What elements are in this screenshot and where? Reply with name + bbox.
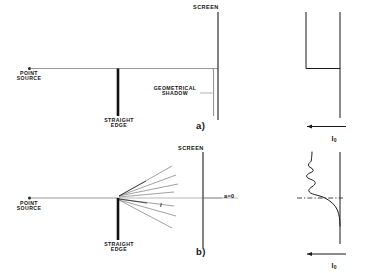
edge-condition-label-b: a=0	[224, 194, 234, 200]
fresnel-intensity-curve-b	[307, 152, 340, 226]
diffracted-ray-strong-b	[119, 181, 147, 203]
i0-axis-label-b-sub: 0	[334, 264, 337, 270]
panel-b-optics-diagram	[28, 152, 238, 248]
i0-axis-label-a: I0	[322, 128, 337, 151]
panel-a-intensity-plot	[306, 12, 346, 129]
point-source-label-a: POINT SOURCE	[6, 71, 52, 82]
screen-label-b: SCREEN	[178, 146, 204, 152]
panel-label-a: a)	[196, 121, 205, 131]
straight-edge-label-b: STRAIGHT EDGE	[95, 242, 143, 253]
panel-a-optics-diagram	[28, 12, 218, 120]
i0-axis-arrowhead-a	[307, 124, 312, 128]
geometrical-shadow-label-a: GEOMETRICAL SHADOW	[148, 86, 202, 97]
i0-axis-label-a-sub: 0	[334, 137, 337, 143]
screen-label-a: SCREEN	[193, 5, 219, 11]
point-source-label-b: POINT SOURCE	[6, 201, 52, 212]
i0-axis-arrowhead-b	[307, 252, 312, 256]
i0-axis-label-b: I0	[322, 255, 337, 273]
diffracted-ray-fan-b	[119, 166, 178, 228]
panel-label-b: b)	[196, 247, 206, 257]
panel-b-intensity-plot	[297, 152, 346, 256]
straight-edge-label-a: STRAIGHT EDGE	[95, 118, 143, 129]
ray-label-b: I	[160, 203, 162, 209]
geometrical-shadow-bracket-a	[213, 69, 214, 117]
